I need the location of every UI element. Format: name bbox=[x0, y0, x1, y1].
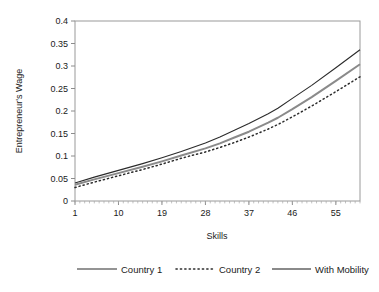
x-axis-title: Skills bbox=[206, 231, 228, 241]
legend-label-country-1: Country 1 bbox=[121, 264, 162, 275]
x-tick-label: 55 bbox=[331, 208, 341, 218]
x-tick-label: 37 bbox=[244, 208, 254, 218]
y-tick-label: 0.25 bbox=[50, 84, 68, 94]
legend-label-with-mobility: With Mobility bbox=[315, 264, 369, 275]
x-tick-label: 10 bbox=[113, 208, 123, 218]
y-axis: 00.050.10.150.20.250.30.350.4 bbox=[50, 16, 75, 206]
chart-legend: Country 1 Country 2 With Mobility bbox=[77, 264, 369, 275]
x-tick-label: 46 bbox=[287, 208, 297, 218]
x-tick-label: 19 bbox=[157, 208, 167, 218]
chart-container: 00.050.10.150.20.250.30.350.4 1101928374… bbox=[0, 0, 379, 292]
x-tick-label: 28 bbox=[200, 208, 210, 218]
y-tick-label: 0.4 bbox=[55, 16, 68, 26]
x-tick-label: 1 bbox=[72, 208, 77, 218]
legend-label-country-2: Country 2 bbox=[219, 264, 260, 275]
y-tick-label: 0.3 bbox=[55, 61, 68, 71]
y-tick-label: 0.35 bbox=[50, 39, 68, 49]
y-tick-label: 0.2 bbox=[55, 106, 68, 116]
y-tick-label: 0 bbox=[63, 196, 68, 206]
line-chart: 00.050.10.150.20.250.30.350.4 1101928374… bbox=[0, 0, 379, 292]
y-axis-title: Entrepreneur's Wage bbox=[14, 69, 24, 153]
y-tick-label: 0.05 bbox=[50, 174, 68, 184]
y-tick-label: 0.1 bbox=[55, 151, 68, 161]
x-axis: 1101928374655 bbox=[72, 201, 340, 218]
y-tick-label: 0.15 bbox=[50, 129, 68, 139]
